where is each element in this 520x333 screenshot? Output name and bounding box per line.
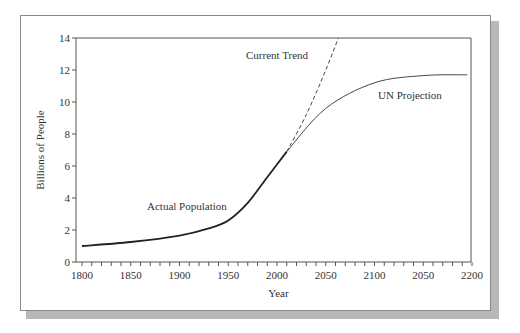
- y-tick-label: 12: [59, 64, 70, 76]
- x-tick-label: 1950: [217, 269, 240, 281]
- x-tick-label: 2200: [461, 269, 484, 281]
- annotation-actual-population: Actual Population: [147, 200, 227, 212]
- x-tick-label: 1850: [120, 269, 143, 281]
- x-tick-label: 1900: [169, 269, 192, 281]
- y-tick-label: 4: [65, 192, 71, 204]
- y-tick-label: 10: [59, 96, 71, 108]
- series-line-un-projection: [287, 75, 467, 152]
- y-tick-label: 0: [65, 256, 71, 268]
- annotation-current-trend: Current Trend: [246, 49, 309, 61]
- y-tick-label: 6: [65, 160, 71, 172]
- y-tick-label: 8: [65, 128, 71, 140]
- y-tick-label: 2: [65, 224, 71, 236]
- x-tick-label: 2100: [364, 269, 387, 281]
- y-tick-label: 14: [59, 32, 71, 44]
- x-axis-label: Year: [268, 287, 289, 299]
- series-line-actual-population: [82, 152, 287, 246]
- x-tick-label: 2050: [315, 269, 338, 281]
- annotation-un-projection: UN Projection: [378, 89, 442, 101]
- x-tick-label: 2000: [266, 269, 289, 281]
- x-tick-label: 1800: [71, 269, 94, 281]
- population-chart: 0246810121418001850190019502000205021002…: [0, 0, 520, 333]
- plot-area-border: [76, 38, 471, 262]
- y-axis-label: Billions of People: [34, 110, 46, 190]
- x-tick-label: 2050: [412, 269, 435, 281]
